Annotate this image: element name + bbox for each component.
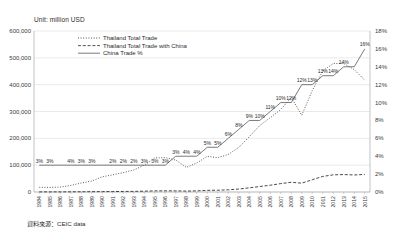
svg-text:1984: 1984: [36, 196, 42, 208]
svg-text:2004: 2004: [246, 196, 252, 208]
svg-text:4%: 4%: [193, 149, 201, 155]
line-chart-canvas: 0100,000200,000300,000400,000500,000600,…: [0, 0, 403, 244]
svg-text:1990: 1990: [99, 196, 105, 208]
svg-text:1994: 1994: [141, 196, 147, 208]
svg-text:12%: 12%: [297, 77, 308, 83]
svg-text:2001: 2001: [215, 196, 221, 208]
svg-text:China Trade %: China Trade %: [103, 50, 143, 56]
svg-text:Thailand Total Trade with Chin: Thailand Total Trade with China: [103, 43, 188, 49]
svg-text:3%: 3%: [46, 158, 54, 164]
svg-text:8%: 8%: [375, 117, 384, 123]
svg-text:10%: 10%: [276, 95, 287, 101]
svg-text:12%: 12%: [286, 95, 297, 101]
svg-text:3%: 3%: [172, 149, 180, 155]
svg-text:3%: 3%: [36, 158, 44, 164]
svg-text:5%: 5%: [204, 140, 212, 146]
svg-text:3%: 3%: [162, 158, 170, 164]
svg-text:1986: 1986: [57, 196, 63, 208]
svg-text:2003: 2003: [236, 196, 242, 208]
unit-label: Unit: million USD: [34, 16, 85, 23]
svg-text:3%: 3%: [151, 158, 159, 164]
chart-legend: Thailand Total TradeThailand Total Trade…: [78, 35, 188, 56]
svg-text:2%: 2%: [130, 158, 138, 164]
svg-text:2005: 2005: [257, 196, 263, 208]
svg-text:9%: 9%: [246, 113, 254, 119]
svg-text:1992: 1992: [120, 196, 126, 208]
svg-text:3%: 3%: [78, 158, 86, 164]
svg-text:2007: 2007: [278, 196, 284, 208]
x-axis-ticks: 1984198519861987198819891990199119921993…: [36, 192, 368, 208]
svg-text:3%: 3%: [88, 158, 96, 164]
svg-text:2006: 2006: [267, 196, 273, 208]
svg-text:1985: 1985: [47, 196, 53, 208]
svg-text:600,000: 600,000: [9, 28, 31, 34]
y-axis-left-ticks: 0100,000200,000300,000400,000500,000600,…: [9, 28, 31, 195]
svg-text:11%: 11%: [265, 104, 275, 110]
svg-text:3%: 3%: [141, 158, 149, 164]
svg-text:2010: 2010: [309, 196, 315, 208]
svg-text:2000: 2000: [204, 196, 210, 208]
svg-text:0: 0: [28, 189, 32, 195]
svg-text:2009: 2009: [299, 196, 305, 208]
svg-text:1988: 1988: [78, 196, 84, 208]
svg-text:18%: 18%: [375, 28, 388, 34]
svg-text:16%: 16%: [375, 46, 388, 52]
svg-text:1993: 1993: [131, 196, 137, 208]
chart-figure: Unit: million USD 0100,000200,000300,000…: [0, 0, 403, 244]
svg-text:2008: 2008: [288, 196, 294, 208]
svg-text:100,000: 100,000: [9, 162, 31, 168]
svg-text:2011: 2011: [320, 196, 326, 207]
svg-text:2002: 2002: [225, 196, 231, 208]
svg-text:1989: 1989: [89, 196, 95, 208]
svg-text:10%: 10%: [375, 100, 388, 106]
series-thailand-total-trade-with-china: [39, 174, 365, 191]
gridlines: [34, 31, 370, 192]
svg-text:2014: 2014: [351, 196, 357, 208]
y-axis-right-ticks: 0%2%4%6%8%10%12%14%16%18%: [375, 28, 388, 195]
svg-text:16%: 16%: [360, 41, 371, 47]
svg-text:10%: 10%: [255, 113, 266, 119]
svg-text:0%: 0%: [375, 189, 384, 195]
svg-text:1996: 1996: [162, 196, 168, 208]
svg-text:2%: 2%: [120, 158, 128, 164]
svg-text:500,000: 500,000: [9, 55, 31, 61]
svg-text:1997: 1997: [173, 196, 179, 208]
svg-text:1999: 1999: [194, 196, 200, 208]
svg-text:4%: 4%: [67, 158, 75, 164]
svg-text:400,000: 400,000: [9, 82, 31, 88]
svg-text:14%: 14%: [339, 59, 350, 65]
svg-text:4%: 4%: [375, 153, 384, 159]
svg-text:5%: 5%: [214, 140, 222, 146]
svg-text:6%: 6%: [375, 135, 384, 141]
svg-text:2015: 2015: [362, 196, 368, 208]
svg-text:200,000: 200,000: [9, 135, 31, 141]
svg-text:6%: 6%: [225, 131, 233, 137]
svg-text:2%: 2%: [109, 158, 117, 164]
svg-text:1998: 1998: [183, 196, 189, 208]
svg-text:13%: 13%: [318, 68, 329, 74]
svg-text:1987: 1987: [68, 196, 74, 208]
series-china-trade-percent: [39, 49, 365, 165]
svg-text:2013: 2013: [341, 196, 347, 208]
svg-text:13%: 13%: [307, 77, 318, 83]
svg-text:4%: 4%: [183, 149, 191, 155]
source-label: 資料來源：CEIC data: [27, 219, 86, 228]
svg-text:Thailand Total Trade: Thailand Total Trade: [103, 35, 158, 41]
svg-text:8%: 8%: [235, 122, 243, 128]
china-trade-percent-data-labels: 3%3%4%3%3%2%2%2%3%3%3%3%4%4%5%5%6%8%9%10…: [36, 41, 371, 163]
svg-text:14%: 14%: [375, 64, 388, 70]
svg-text:1995: 1995: [152, 196, 158, 208]
svg-text:1991: 1991: [110, 196, 116, 208]
svg-text:2012: 2012: [330, 196, 336, 208]
svg-text:14%: 14%: [328, 68, 339, 74]
svg-text:12%: 12%: [375, 82, 388, 88]
svg-text:300,000: 300,000: [9, 109, 31, 115]
svg-text:2%: 2%: [375, 171, 384, 177]
